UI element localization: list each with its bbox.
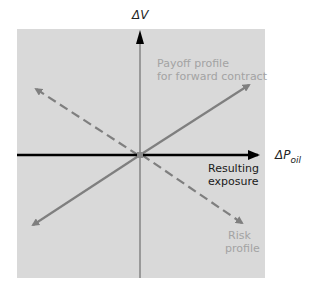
y-axis-label: ΔV <box>131 8 149 22</box>
payoff-label-line1: Payoff profile <box>157 57 229 70</box>
origin-point <box>137 152 143 158</box>
payoff-label-line2: for forward contract <box>157 70 268 83</box>
x-axis-label: ΔPoil <box>274 148 301 165</box>
resulting-exposure-label-line1: Resulting <box>208 162 259 175</box>
risk-profile-label-line2: profile <box>225 242 260 255</box>
diagram-canvas: ΔV ΔPoil Payoff profile for forward cont… <box>0 0 315 288</box>
risk-profile-label-line1: Risk <box>228 229 251 242</box>
resulting-exposure-label-line2: exposure <box>208 175 259 188</box>
